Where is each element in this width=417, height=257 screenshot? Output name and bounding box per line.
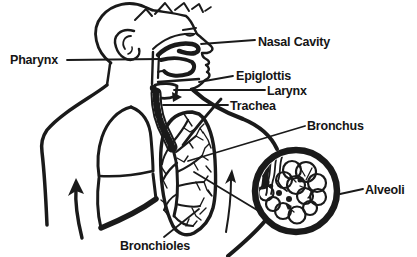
diagram-canvas: Nasal Cavity Pharynx Epiglottis Larynx T… — [0, 0, 417, 257]
leader-alveoli — [340, 189, 363, 194]
lung-base-curve — [101, 199, 156, 228]
label-larynx: Larynx — [267, 84, 307, 98]
lung-fissure — [99, 171, 153, 176]
leader-nasal-cavity — [201, 40, 255, 44]
leader-pharynx — [67, 59, 160, 60]
label-epiglottis: Epiglottis — [236, 69, 291, 83]
label-bronchus: Bronchus — [307, 119, 364, 133]
airflow-arrow-right — [225, 169, 236, 232]
hair-strokes — [135, 3, 211, 20]
pharynx-wall — [152, 52, 153, 84]
ear — [115, 30, 139, 60]
label-nasal-cavity: Nasal Cavity — [258, 35, 330, 49]
label-bronchioles: Bronchioles — [120, 239, 190, 253]
pharynx-wall — [158, 54, 159, 78]
label-trachea: Trachea — [230, 99, 277, 113]
leader-epiglottis — [199, 76, 233, 82]
jaw-floor-line — [158, 79, 199, 82]
airflow-arrow-left — [68, 178, 84, 238]
neck-left-line — [107, 64, 110, 85]
left-lung — [98, 107, 156, 228]
tongue-shape — [161, 58, 194, 75]
nasal-cavity-shape — [158, 43, 198, 55]
label-alveoli: Alveoli — [365, 183, 405, 197]
label-pharynx: Pharynx — [10, 53, 58, 67]
respiratory-system-diagram: Nasal Cavity Pharynx Epiglottis Larynx T… — [0, 0, 417, 257]
right-side-line — [228, 221, 265, 256]
